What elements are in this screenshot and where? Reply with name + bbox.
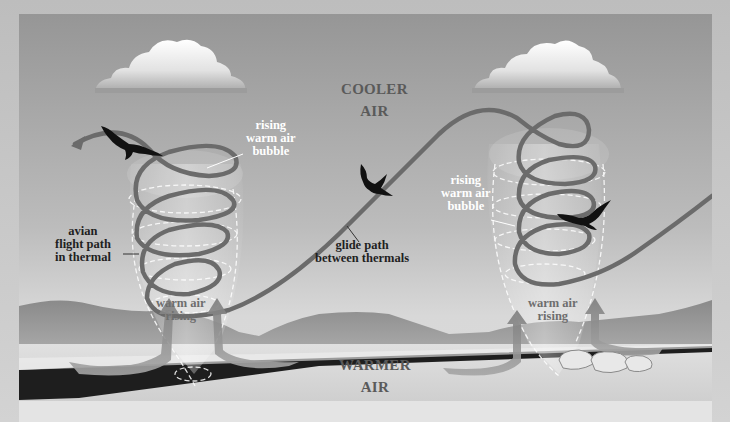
glide-path-line-2: between thermals (315, 252, 409, 265)
warmer-air-line-2: AIR (339, 380, 411, 396)
diagram-panel: COOLER AIR WARMER AIR rising warm air bu… (19, 14, 712, 401)
flight-path-line-3: in thermal (55, 251, 111, 264)
left-rising-label: warm air rising (156, 297, 206, 323)
right-bubble-label: rising warm air bubble (441, 174, 491, 213)
warmer-air-label: WARMER AIR (339, 358, 411, 396)
cooler-air-line-1: COOLER (341, 82, 408, 98)
right-rising-label: warm air rising (528, 297, 578, 323)
right-rising-line-2: rising (528, 310, 578, 323)
thermal-illustration (19, 14, 712, 401)
warmer-air-line-1: WARMER (339, 358, 411, 374)
right-bubble-line-3: bubble (441, 200, 491, 213)
flight-path-label: avian flight path in thermal (55, 225, 111, 264)
bottom-strip (19, 401, 712, 422)
left-bubble-label: rising warm air bubble (246, 119, 296, 158)
cooler-air-line-2: AIR (341, 104, 408, 120)
left-bubble-line-3: bubble (246, 145, 296, 158)
left-rising-line-2: rising (156, 310, 206, 323)
glide-path-label: glide path between thermals (315, 239, 409, 265)
cooler-air-label: COOLER AIR (341, 82, 408, 120)
